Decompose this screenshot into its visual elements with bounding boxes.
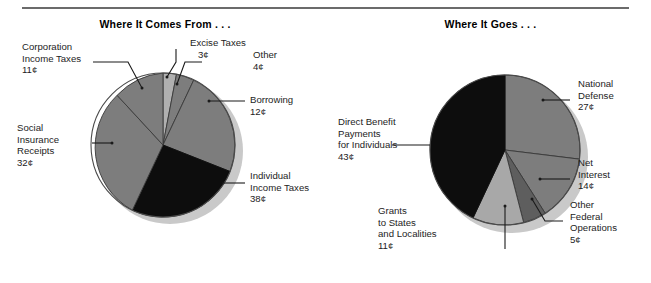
label-corporation-income-taxes: Corporation Income Taxes 11¢ (22, 41, 81, 76)
pie-slice-national-defense[interactable] (505, 75, 580, 159)
label-national-defense: National Defense 27¢ (578, 78, 614, 113)
label-individual-income-taxes: Individual Income Taxes 38¢ (250, 170, 309, 205)
label-other-revenue: Other 4¢ (253, 49, 277, 72)
chart-panel-revenue: Where It Comes From . . . (0, 0, 330, 283)
label-borrowing: Borrowing 12¢ (250, 94, 293, 117)
label-net-interest: Net Interest 14¢ (578, 157, 610, 192)
label-excise-taxes: Excise Taxes 3¢ (190, 37, 246, 60)
label-social-insurance-receipts: Social Insurance Receipts 32¢ (17, 122, 59, 168)
chart-panel-spending: Where It Goes . . . (330, 0, 651, 283)
label-other-federal-operations: Other Federal Operations 5¢ (570, 199, 617, 245)
label-grants-to-states: Grants to States and Localities 11¢ (378, 205, 505, 251)
label-direct-benefit-payments: Direct Benefit Payments for Individuals … (338, 116, 397, 162)
